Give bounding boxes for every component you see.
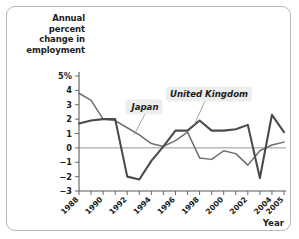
chart-plot-area: −3−2−1012345% 19881990199219941996199820… xyxy=(7,7,292,232)
y-axis-ticks: −3−2−1012345% xyxy=(58,71,79,196)
svg-text:1990: 1990 xyxy=(83,195,104,216)
annotation-japan: Japan xyxy=(125,100,162,115)
svg-text:1: 1 xyxy=(66,129,72,139)
svg-text:0: 0 xyxy=(66,143,72,153)
svg-text:1998: 1998 xyxy=(180,195,201,216)
series-line-united-kingdom xyxy=(79,115,284,180)
x-axis-ticks xyxy=(79,191,284,195)
annotation-label-united-kingdom: United Kingdom xyxy=(170,89,248,99)
line-chart-svg: −3−2−1012345% 19881990199219941996199820… xyxy=(7,7,292,232)
svg-text:3: 3 xyxy=(66,100,72,110)
svg-text:1996: 1996 xyxy=(156,195,177,216)
svg-text:1994: 1994 xyxy=(131,195,152,216)
svg-text:−3: −3 xyxy=(59,186,72,196)
svg-text:2000: 2000 xyxy=(204,195,225,216)
leader-line-japan xyxy=(134,114,145,135)
svg-text:−2: −2 xyxy=(59,172,72,182)
figure-frame: Annual percent change in employment Year… xyxy=(6,6,291,231)
svg-text:2002: 2002 xyxy=(228,195,249,216)
svg-text:5%: 5% xyxy=(58,71,72,81)
x-axis-tick-labels: 1988199019921994199619982000200220042005 xyxy=(59,195,285,216)
annotation-united-kingdom: United Kingdom xyxy=(166,87,252,102)
annotation-label-japan: Japan xyxy=(129,102,158,112)
svg-text:1992: 1992 xyxy=(107,195,128,216)
svg-text:4: 4 xyxy=(66,85,72,95)
svg-text:−1: −1 xyxy=(59,157,72,167)
svg-text:1988: 1988 xyxy=(59,195,80,216)
series-line-japan xyxy=(79,93,284,165)
svg-text:2: 2 xyxy=(66,114,72,124)
